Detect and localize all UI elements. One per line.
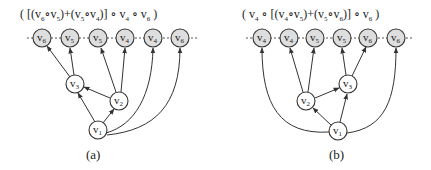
panel-b: ( v4 ∘ [(v4∘v5)+(v5∘v6)] ∘ v6 ) v4 v4 [242, 7, 414, 162]
edge-v3-top1 [70, 48, 74, 75]
edge-v1-v2 [313, 108, 331, 125]
node-b-top0: v4 [253, 29, 271, 47]
node-b-v2: v2 [297, 92, 315, 110]
edge-v3-top3 [342, 48, 346, 75]
edge-v2-v3 [84, 87, 110, 98]
node-b-v1: v1 [329, 122, 347, 140]
node-b-top3: v5 [333, 29, 351, 47]
caption-b: (b) [329, 147, 344, 162]
node-a-top4: v4 [144, 29, 162, 47]
edge-v2-v3 [315, 88, 339, 98]
edges-b [262, 47, 396, 133]
node-a-v1: v1 [89, 121, 107, 139]
edges-a [47, 46, 180, 135]
edge-v2-top3 [121, 48, 125, 92]
node-a-v3: v3 [66, 75, 84, 93]
node-b-v3: v3 [339, 75, 357, 93]
node-a-v2: v2 [110, 92, 128, 110]
node-a-top5: v6 [171, 29, 189, 47]
edge-v2-top1 [290, 48, 303, 92]
edge-v3-top0 [47, 46, 70, 77]
edge-v1-top4 [106, 48, 153, 133]
node-a-top2: v5 [89, 29, 107, 47]
edge-v2-top2 [308, 48, 314, 92]
diagram-canvas: ( [(v6∘v5)+(v5∘v4)] ∘ v4 ∘ v6 ) v6 v5 [0, 0, 431, 170]
node-a-top3: v4 [116, 29, 134, 47]
edge-v1-v2 [103, 109, 114, 123]
node-a-top1: v5 [61, 29, 79, 47]
edge-v1-top0 [262, 48, 329, 132]
edge-v1-v3 [78, 93, 95, 122]
edge-v2-top2 [101, 48, 116, 92]
edge-v1-v3 [340, 94, 347, 122]
edge-v1-top5 [107, 48, 180, 135]
panel-a: ( [(v6∘v5)+(v5∘v4)] ∘ v4 ∘ v6 ) v6 v5 [20, 7, 197, 162]
expression-a: ( [(v6∘v5)+(v5∘v4)] ∘ v4 ∘ v6 ) [20, 7, 157, 23]
expression-b: ( v4 ∘ [(v4∘v5)+(v5∘v6)] ∘ v6 ) [242, 7, 379, 23]
node-b-top1: v4 [280, 29, 298, 47]
edge-v3-top4 [352, 47, 366, 76]
node-b-top4: v6 [359, 29, 377, 47]
caption-a: (a) [86, 147, 100, 162]
node-b-top2: v5 [306, 29, 324, 47]
node-a-top0: v6 [33, 29, 51, 47]
node-b-top5: v6 [387, 29, 405, 47]
